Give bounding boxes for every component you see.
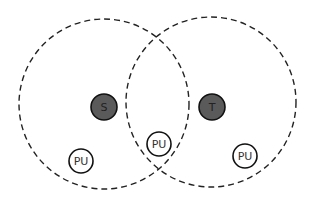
target-node-label: T bbox=[208, 101, 216, 114]
source-node: S bbox=[91, 94, 117, 120]
primary-user-left: PU bbox=[69, 149, 93, 173]
target-node: T bbox=[199, 94, 225, 120]
primary-user-middle-label: PU bbox=[152, 138, 167, 151]
primary-user-right-label: PU bbox=[238, 150, 253, 163]
primary-user-middle: PU bbox=[147, 132, 171, 156]
network-diagram: STPUPUPU bbox=[0, 0, 311, 199]
primary-user-right: PU bbox=[233, 144, 257, 168]
source-node-label: S bbox=[101, 101, 108, 114]
primary-user-left-label: PU bbox=[74, 155, 89, 168]
